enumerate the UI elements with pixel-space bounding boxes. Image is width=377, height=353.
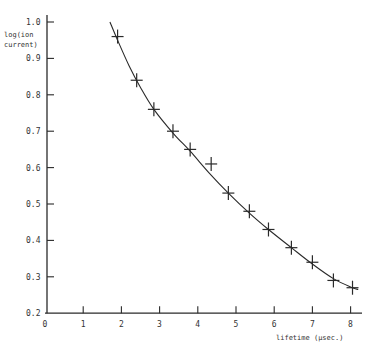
data-point-plus-marker: [205, 157, 217, 171]
data-point-plus-marker: [131, 73, 143, 87]
axes: [45, 15, 362, 313]
data-point-plus-marker: [347, 281, 359, 295]
y-tick-label: 1.0: [26, 18, 41, 27]
y-tick-label: 0.2: [26, 309, 41, 318]
x-tick-label: 3: [157, 320, 162, 329]
data-points: [112, 30, 359, 295]
y-tick-label: 0.3: [26, 273, 41, 282]
x-tick-label: 4: [195, 320, 200, 329]
data-point-plus-marker: [285, 241, 297, 255]
x-tick-label: 8: [348, 320, 353, 329]
tick-labels: 0.20.30.40.50.60.70.80.91.0012345678: [26, 18, 353, 329]
y-axis-title-line2: current): [4, 41, 38, 49]
data-point-plus-marker: [262, 222, 274, 236]
data-point-plus-marker: [184, 142, 196, 156]
x-tick-label: 2: [119, 320, 124, 329]
y-tick-label: 0.8: [26, 91, 41, 100]
y-tick-label: 0.6: [26, 164, 41, 173]
chart-canvas: 0.20.30.40.50.60.70.80.91.0012345678 log…: [0, 0, 377, 353]
x-axis-title: lifetime (μsec.): [276, 334, 343, 342]
y-tick-label: 0.5: [26, 200, 41, 209]
y-tick-label: 0.4: [26, 236, 41, 245]
ticks: [47, 22, 351, 313]
x-tick-label: 5: [234, 320, 239, 329]
fitted-curve-path: [110, 22, 358, 290]
x-tick-label: 0: [43, 320, 48, 329]
x-tick-label: 6: [272, 320, 277, 329]
x-tick-label: 7: [310, 320, 315, 329]
y-axis-title-line1: log(ion: [4, 31, 34, 39]
fitted-curve: [110, 22, 358, 290]
y-tick-label: 0.7: [26, 127, 41, 136]
y-tick-label: 0.9: [26, 54, 41, 63]
data-point-plus-marker: [167, 124, 179, 138]
x-tick-label: 1: [81, 320, 86, 329]
